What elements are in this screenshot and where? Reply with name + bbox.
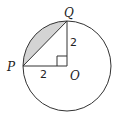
circle-diagram: Q P O 2 2 bbox=[0, 0, 120, 118]
length-po: 2 bbox=[40, 68, 47, 81]
length-oq: 2 bbox=[70, 36, 77, 49]
label-o: O bbox=[70, 69, 80, 83]
label-q: Q bbox=[64, 6, 74, 20]
right-angle-mark bbox=[57, 56, 67, 66]
label-p: P bbox=[6, 60, 16, 74]
